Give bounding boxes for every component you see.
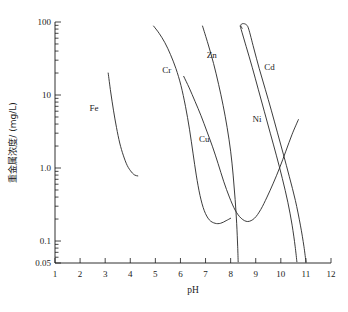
x-tick-label: 4 [128, 269, 133, 279]
curve-zn [203, 26, 239, 262]
x-tick-label: 11 [302, 269, 311, 279]
x-tick-label: 7 [203, 269, 208, 279]
x-tick-label: 1 [53, 269, 58, 279]
y-tick-label: 0.1 [40, 236, 51, 246]
x-tick-label: 6 [178, 269, 183, 279]
x-tick-label: 10 [276, 269, 286, 279]
y-tick-label: 0.05 [35, 258, 51, 268]
series-label-zn: Zn [207, 50, 217, 60]
x-tick-label: 12 [327, 269, 336, 279]
curve-cr [154, 26, 231, 224]
solubility-chart: 0.050.11.010100123456789101112pH重金属浓度/ (… [0, 0, 348, 312]
x-tick-label: 8 [228, 269, 233, 279]
x-tick-label: 5 [153, 269, 158, 279]
y-axis-title: 重金属浓度/ (mg/L) [7, 102, 18, 182]
y-tick-label: 10 [42, 90, 52, 100]
series-label-ni: Ni [252, 114, 261, 124]
series-label-cu: Cu [199, 134, 210, 144]
x-tick-label: 3 [103, 269, 108, 279]
x-tick-label: 2 [78, 269, 83, 279]
curve-fe [108, 73, 138, 176]
series-label-cd: Cd [264, 62, 275, 72]
x-axis-title: pH [187, 285, 199, 295]
figure-container: 0.050.11.010100123456789101112pH重金属浓度/ (… [0, 0, 348, 312]
y-tick-label: 100 [38, 17, 52, 27]
series-label-cr: Cr [162, 65, 171, 75]
x-tick-label: 9 [253, 269, 258, 279]
y-tick-label: 1.0 [40, 163, 52, 173]
series-label-fe: Fe [89, 103, 98, 113]
